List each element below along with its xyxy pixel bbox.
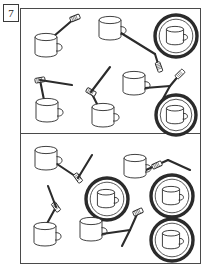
- figure-container: 7: [0, 0, 209, 271]
- top-panel: [20, 8, 200, 133]
- bottom-panel: [20, 133, 200, 263]
